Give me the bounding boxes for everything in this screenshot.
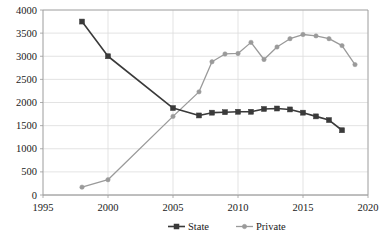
y-tick-label: 3000 [16,51,37,62]
data-point-private [288,36,292,40]
data-point-private [340,43,344,47]
data-point-state [210,110,215,115]
data-point-private [106,178,110,182]
data-point-private [275,45,279,49]
data-point-private [327,36,331,40]
data-point-state [223,110,228,115]
legend-label-private: Private [256,221,286,232]
data-point-private [262,57,266,61]
x-tick-label: 2020 [358,202,379,213]
data-point-state [249,109,254,114]
data-point-private [236,51,240,55]
data-point-state [197,113,202,118]
data-point-private [210,60,214,64]
y-axis-tick-labels: 05001000150020002500300035004000 [16,5,43,201]
legend-marker-private [242,224,246,228]
data-point-state [288,107,293,112]
chart-container: 05001000150020002500300035004000 1995200… [0,0,384,239]
data-point-private [197,90,201,94]
series-line-private [82,35,355,188]
grid-lines [43,10,368,195]
data-point-state [275,106,280,111]
data-point-private [171,114,175,118]
data-point-state [106,54,111,59]
y-tick-label: 2000 [16,97,37,108]
y-tick-label: 500 [21,166,37,177]
x-tick-label: 2010 [228,202,249,213]
data-point-private [223,52,227,56]
y-tick-label: 3500 [16,28,37,39]
data-point-private [249,40,253,44]
y-tick-label: 0 [32,190,37,201]
x-tick-label: 2005 [163,202,184,213]
data-point-private [353,62,357,66]
y-tick-label: 2500 [16,74,37,85]
data-point-private [80,185,84,189]
data-point-private [314,34,318,38]
x-tick-label: 2000 [98,202,119,213]
data-point-private [301,32,305,36]
x-tick-label: 2015 [293,202,314,213]
data-point-state [301,110,306,115]
legend-marker-state [174,224,179,229]
data-point-state [236,109,241,114]
y-tick-label: 1000 [16,143,37,154]
data-point-state [262,106,267,111]
x-tick-label: 1995 [33,202,54,213]
data-point-state [80,19,85,24]
chart-legend: StatePrivate [168,221,286,232]
data-point-state [314,114,319,119]
legend-label-state: State [188,221,209,232]
data-point-state [340,128,345,133]
y-tick-label: 1500 [16,120,37,131]
y-tick-label: 4000 [16,5,37,16]
data-point-state [327,118,332,123]
data-point-state [171,106,176,111]
x-axis-tick-labels: 199520002005201020152020 [33,195,379,213]
line-chart: 05001000150020002500300035004000 1995200… [0,0,384,239]
